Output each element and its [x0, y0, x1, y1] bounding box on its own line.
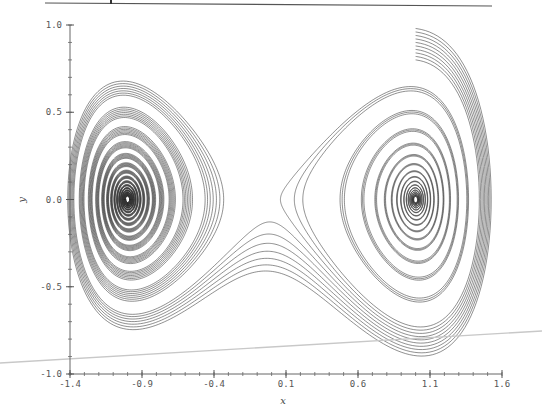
trajectory-line	[280, 53, 482, 333]
y-tick-label: 0.5	[46, 107, 62, 117]
trajectory-line	[294, 56, 480, 330]
y-tick-label: -1.0	[40, 369, 62, 379]
x-tick-label: -0.9	[131, 379, 153, 389]
x-axis-label: x	[280, 395, 286, 406]
faint-diagonal-line	[0, 331, 542, 363]
x-tick-label: -0.4	[203, 379, 225, 389]
y-tick-label: 0.0	[46, 195, 62, 205]
y-axis-label: y	[16, 197, 27, 204]
x-tick-label: 1.1	[422, 379, 438, 389]
trajectory-line	[303, 60, 480, 327]
top-rule	[45, 3, 492, 6]
x-tick-label: 0.1	[278, 379, 294, 389]
x-tick-label: -1.4	[59, 379, 81, 389]
y-tick-label: -0.5	[40, 282, 62, 292]
x-tick-label: 1.6	[494, 379, 510, 389]
x-tick-label: 0.6	[350, 379, 366, 389]
trajectory-line	[68, 28, 491, 356]
phase-portrait-chart: -1.4-0.9-0.40.10.61.11.6-1.0-0.50.00.51.…	[0, 0, 542, 413]
y-tick-label: 1.0	[46, 20, 62, 30]
trajectory-group	[68, 28, 491, 356]
